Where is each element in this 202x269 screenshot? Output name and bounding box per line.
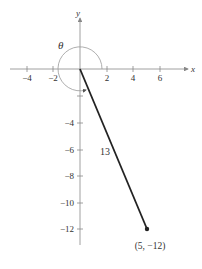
point-marker: [145, 227, 149, 231]
y-axis-label: y: [75, 8, 80, 18]
x-tick-label: −4: [22, 73, 32, 83]
y-tick-label: −10: [60, 198, 75, 208]
y-tick-label: −12: [60, 224, 74, 234]
x-tick-label: 2: [105, 73, 110, 83]
x-tick-label: 4: [131, 73, 136, 83]
y-tick-label: −6: [64, 145, 74, 155]
x-tick-label: −2: [48, 73, 58, 83]
theta-label: θ: [58, 39, 64, 51]
diagram-canvas: −4 −2 2 4 6 −4 −6 −8 −10 −12 x y θ 13 (5…: [0, 0, 202, 269]
x-axis-label: x: [190, 64, 195, 74]
terminal-side-segment: [80, 69, 147, 229]
y-tick-label: −4: [64, 118, 74, 128]
point-label: (5, −12): [135, 241, 166, 252]
length-label: 13: [100, 146, 110, 157]
y-tick-label: −8: [64, 171, 74, 181]
x-tick-label: 6: [158, 73, 163, 83]
